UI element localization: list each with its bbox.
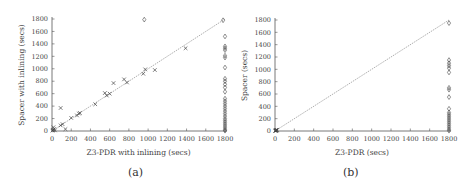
x-tick-label: 600 — [327, 135, 339, 143]
y-tick-label: 600 — [36, 90, 48, 98]
x-tick-label: 400 — [84, 135, 96, 143]
y-tick-label: 0 — [267, 127, 271, 135]
plot-b-series-diamond — [447, 21, 450, 133]
x-tick-label: 1800 — [441, 135, 458, 143]
plot-a-series-cross — [51, 46, 188, 132]
cross-marker — [61, 122, 65, 126]
figure-a: 0200400600800100012001400160018000200400… — [0, 0, 240, 190]
plot-a-series-diamond — [143, 17, 227, 133]
y-tick-label: 0 — [44, 127, 48, 135]
y-tick-label: 1200 — [254, 53, 271, 61]
plot-b-series-cross — [273, 128, 278, 133]
diamond-marker — [143, 17, 146, 22]
cross-marker — [153, 68, 157, 72]
y-tick-label: 1200 — [31, 53, 48, 61]
y-tick-label: 1000 — [31, 65, 48, 73]
y-tick-label: 400 — [36, 102, 48, 110]
diamond-marker — [223, 82, 226, 87]
y-tick-label: 200 — [259, 115, 271, 123]
diamond-marker — [447, 21, 450, 26]
scatter-plot-b: 0200400600800100012001400160018000200400… — [240, 0, 475, 190]
y-tick-label: 1800 — [31, 15, 48, 23]
cross-marker — [64, 127, 68, 131]
x-tick-label: 0 — [273, 135, 277, 143]
x-tick-label: 1600 — [198, 135, 215, 143]
diamond-marker — [447, 95, 450, 100]
x-tick-label: 1400 — [402, 135, 419, 143]
x-tick-label: 1200 — [159, 135, 176, 143]
y-tick-label: 800 — [259, 78, 271, 86]
y-tick-label: 1400 — [31, 40, 48, 48]
x-tick-label: 1400 — [178, 135, 195, 143]
x-tick-label: 200 — [65, 135, 77, 143]
plot-b-x-axis-label: Z3-PDR (secs) — [335, 148, 389, 157]
cross-marker — [59, 106, 63, 110]
x-tick-label: 1000 — [363, 135, 380, 143]
plot-a-y-axis-label: Spacer with inlining (secs) — [17, 24, 26, 126]
cross-marker — [93, 102, 97, 106]
y-tick-label: 200 — [36, 115, 48, 123]
y-tick-label: 1600 — [31, 28, 48, 36]
diamond-marker — [447, 85, 450, 90]
cross-marker — [184, 46, 188, 50]
cross-marker — [125, 81, 129, 85]
x-tick-label: 1600 — [421, 135, 438, 143]
cross-marker — [103, 91, 107, 95]
figure-b: 0200400600800100012001400160018000200400… — [240, 0, 475, 190]
x-tick-label: 200 — [288, 135, 300, 143]
plot-b-y-axis-label: Spacer (secs) — [240, 50, 249, 101]
cross-marker — [112, 81, 116, 85]
y-tick-label: 800 — [36, 77, 48, 85]
diamond-marker — [447, 58, 450, 63]
x-tick-label: 800 — [346, 135, 358, 143]
x-tick-label: 1000 — [140, 135, 157, 143]
x-tick-label: 800 — [123, 135, 135, 143]
y-tick-label: 1400 — [254, 41, 271, 49]
cross-marker — [69, 116, 73, 120]
x-tick-label: 400 — [307, 135, 319, 143]
x-tick-label: 600 — [103, 135, 115, 143]
y-tick-label: 1800 — [254, 16, 271, 24]
diamond-marker — [223, 34, 226, 39]
diagonal-reference-line — [275, 20, 449, 131]
cross-marker — [142, 72, 146, 76]
x-tick-label: 0 — [50, 135, 54, 143]
caption-a: (a) — [128, 166, 143, 179]
scatter-plot-a: 0200400600800100012001400160018000200400… — [0, 0, 240, 190]
x-tick-label: 1800 — [217, 135, 234, 143]
cross-marker — [59, 124, 63, 128]
y-tick-label: 400 — [259, 103, 271, 111]
plot-a-x-axis-label: Z3-PDR with inlining (secs) — [86, 148, 190, 157]
diamond-marker — [447, 87, 450, 92]
diamond-marker — [223, 65, 226, 70]
y-tick-label: 600 — [259, 90, 271, 98]
y-tick-label: 1600 — [254, 29, 271, 37]
y-tick-label: 1000 — [254, 66, 271, 74]
x-tick-label: 1200 — [383, 135, 400, 143]
caption-b: (b) — [343, 166, 359, 179]
